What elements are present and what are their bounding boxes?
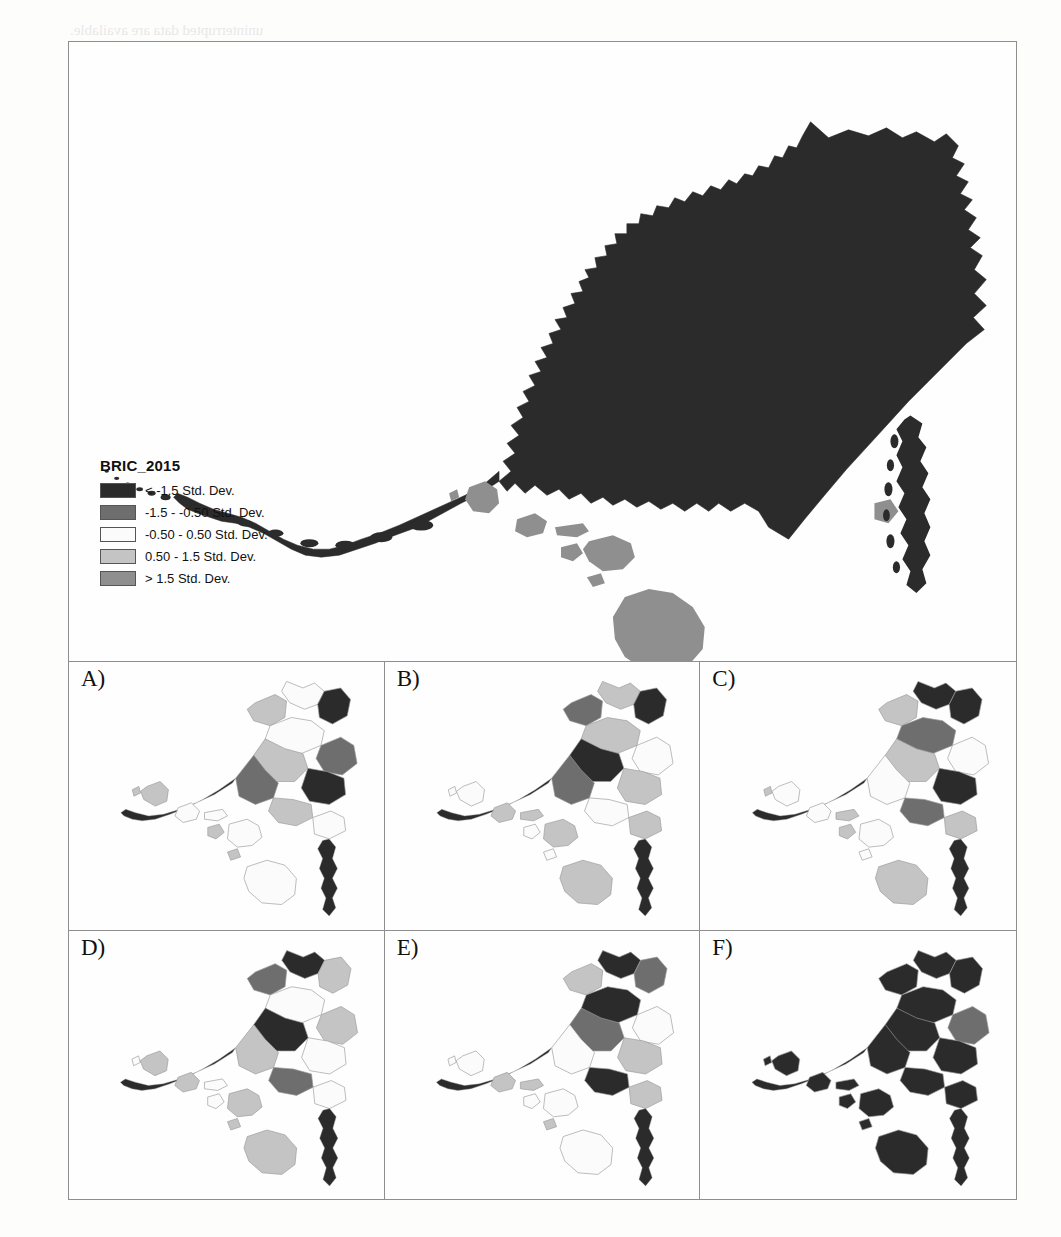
small-multiples-grid: A)B)C)D)E)F) xyxy=(69,662,1016,1199)
hawaii-island xyxy=(448,786,456,796)
panel-label: B) xyxy=(397,666,420,692)
small-multiple-panel-b: B) xyxy=(385,662,701,931)
hawaii-island xyxy=(543,849,556,860)
alaska-borough xyxy=(316,1006,357,1044)
hawaii-kahoolawe xyxy=(587,573,605,587)
hawaii-island xyxy=(543,1118,556,1130)
panel-label: A) xyxy=(81,666,105,692)
panel-label: F) xyxy=(712,935,732,961)
hawaii-island xyxy=(840,1093,856,1108)
panel-map-graphic xyxy=(69,931,384,1200)
alaska-borough xyxy=(313,1080,346,1108)
alaska-panhandle xyxy=(950,839,970,916)
bleed-text: uninterrupted data are available. xyxy=(70,22,263,39)
hawaii-island xyxy=(140,1050,168,1075)
legend-label: 0.50 - 1.5 Std. Dev. xyxy=(145,549,256,564)
alaska-borough xyxy=(628,811,661,839)
hawaii-island xyxy=(560,860,613,904)
hawaii-oahu xyxy=(515,513,547,537)
legend-label: < -1.5 Std. Dev. xyxy=(145,483,235,498)
legend-swatch xyxy=(100,549,136,564)
small-multiple-panel-f: F) xyxy=(700,931,1016,1200)
alaska-borough xyxy=(269,1067,313,1095)
map-legend: BRIC_2015 < -1.5 Std. Dev.-1.5 - -0.50 S… xyxy=(100,457,268,590)
hawaii-main xyxy=(449,481,705,661)
hawaii-island xyxy=(491,803,516,823)
legend-title: BRIC_2015 xyxy=(100,457,268,474)
hawaii-island xyxy=(204,1078,227,1090)
small-multiple-panel-e: E) xyxy=(385,931,701,1200)
legend-row: > 1.5 Std. Dev. xyxy=(100,568,268,588)
legend-swatch xyxy=(100,505,136,520)
hawaii-island xyxy=(876,860,929,904)
hawaii-island xyxy=(132,1055,140,1065)
hawaii-island xyxy=(859,849,872,860)
alaska-panhandle xyxy=(318,1108,338,1185)
hawaii-island xyxy=(208,1093,224,1108)
hawaii-island xyxy=(523,1093,539,1108)
small-multiple-panel-c: C) xyxy=(700,662,1016,931)
hawaii-island xyxy=(772,781,800,806)
alaska-borough xyxy=(584,798,628,826)
hawaii-island xyxy=(807,1072,832,1092)
alaska-borough xyxy=(316,737,357,775)
alaska-borough xyxy=(268,798,312,826)
hawaii-island xyxy=(876,1129,929,1173)
hawaii-island xyxy=(490,1072,515,1092)
panel-map-graphic xyxy=(385,931,700,1200)
hawaii-maui xyxy=(583,535,635,571)
alaska-borough xyxy=(629,1080,662,1108)
alaska-borough xyxy=(879,695,918,726)
hawaii-island xyxy=(456,781,484,806)
panel-label: E) xyxy=(397,935,419,961)
hawaii-island xyxy=(836,809,859,820)
alaska-panhandle xyxy=(950,1108,970,1185)
hawaii-island xyxy=(227,819,261,847)
alaska-borough xyxy=(948,737,989,775)
main-map-panel: BRIC_2015 < -1.5 Std. Dev.-1.5 - -0.50 S… xyxy=(69,42,1016,662)
legend-row: -1.5 - -0.50 Std. Dev. xyxy=(100,502,268,522)
legend-label: > 1.5 Std. Dev. xyxy=(145,571,230,586)
figure-frame: BRIC_2015 < -1.5 Std. Dev.-1.5 - -0.50 S… xyxy=(68,41,1017,1200)
hawaii-island xyxy=(807,803,832,823)
hawaii-island xyxy=(859,1118,872,1130)
legend-entries: < -1.5 Std. Dev.-1.5 - -0.50 Std. Dev.-0… xyxy=(100,480,268,588)
hawaii-island xyxy=(764,1055,772,1065)
hawaii-island xyxy=(543,1088,578,1116)
alaska-borough xyxy=(247,695,286,726)
panel-map-graphic xyxy=(700,662,1016,930)
alaska-borough xyxy=(584,1067,628,1095)
legend-swatch xyxy=(100,483,136,498)
hawaii-island xyxy=(859,1088,894,1116)
legend-row: 0.50 - 1.5 Std. Dev. xyxy=(100,546,268,566)
panel-label: D) xyxy=(81,935,105,961)
hawaii-island xyxy=(772,1050,800,1075)
hawaii-island xyxy=(523,824,539,839)
hawaii-island xyxy=(244,860,297,904)
hawaii-kauai xyxy=(465,481,499,513)
hawaii-big-island xyxy=(613,589,705,661)
panel-map-graphic xyxy=(700,931,1016,1200)
hawaii-island xyxy=(836,1078,859,1090)
alaska-panhandle xyxy=(318,839,338,916)
alaska-borough xyxy=(948,1006,989,1044)
legend-row: < -1.5 Std. Dev. xyxy=(100,480,268,500)
hawaii-island xyxy=(560,1129,613,1173)
legend-label: -0.50 - 0.50 Std. Dev. xyxy=(145,527,268,542)
alaska-borough xyxy=(900,1067,944,1095)
alaska-borough xyxy=(945,811,978,839)
hawaii-island xyxy=(520,1078,543,1090)
hawaii-island xyxy=(448,1055,456,1065)
hawaii-island xyxy=(859,819,893,847)
hawaii-island xyxy=(175,1072,200,1092)
legend-swatch xyxy=(100,527,136,542)
alaska-borough xyxy=(563,695,602,726)
hawaii-island xyxy=(227,1118,240,1130)
hawaii-island xyxy=(840,824,856,839)
hawaii-island xyxy=(208,824,224,839)
alaska-borough xyxy=(563,963,603,994)
hawaii-lanai xyxy=(561,543,583,561)
alaska-panhandle xyxy=(633,839,653,916)
alaska-panhandle xyxy=(634,1108,654,1185)
hawaii-island xyxy=(244,1129,297,1173)
